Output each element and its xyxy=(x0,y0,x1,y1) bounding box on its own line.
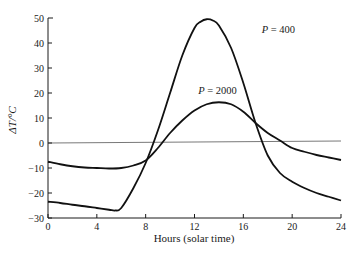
series-label-p-2000: P = 2000 xyxy=(197,85,237,96)
y-tick-label: 30 xyxy=(34,63,44,74)
y-tick-label: 10 xyxy=(34,113,44,124)
y-tick-label: −10 xyxy=(28,163,44,174)
chart: −30−20−100102030405004812162024 P = 400P… xyxy=(0,0,354,256)
x-tick-label: 4 xyxy=(94,221,99,232)
x-tick-label: 0 xyxy=(46,221,51,232)
x-axis-label: Hours (solar time) xyxy=(154,232,235,245)
zero-reference-line xyxy=(48,141,341,143)
series-line-p-400 xyxy=(48,19,341,210)
y-tick-label: 40 xyxy=(34,38,44,49)
y-tick-label: 0 xyxy=(39,138,44,149)
series-group: P = 400P = 2000 xyxy=(48,19,341,210)
series-label-p-400: P = 400 xyxy=(261,24,295,35)
y-tick-label: 20 xyxy=(34,88,44,99)
x-tick-label: 20 xyxy=(287,221,297,232)
y-axis-label: ΔT/°C xyxy=(6,106,18,135)
x-tick-label: 12 xyxy=(190,221,200,232)
series-line-p-2000 xyxy=(48,102,341,168)
labels-group: Hours (solar time) ΔT/°C xyxy=(6,106,235,245)
axes: −30−20−100102030405004812162024 xyxy=(28,13,346,232)
x-tick-label: 16 xyxy=(238,221,248,232)
y-tick-label: −30 xyxy=(28,213,44,224)
x-tick-label: 8 xyxy=(143,221,148,232)
x-tick-label: 24 xyxy=(336,221,346,232)
y-tick-label: 50 xyxy=(34,13,44,24)
y-tick-label: −20 xyxy=(28,188,44,199)
